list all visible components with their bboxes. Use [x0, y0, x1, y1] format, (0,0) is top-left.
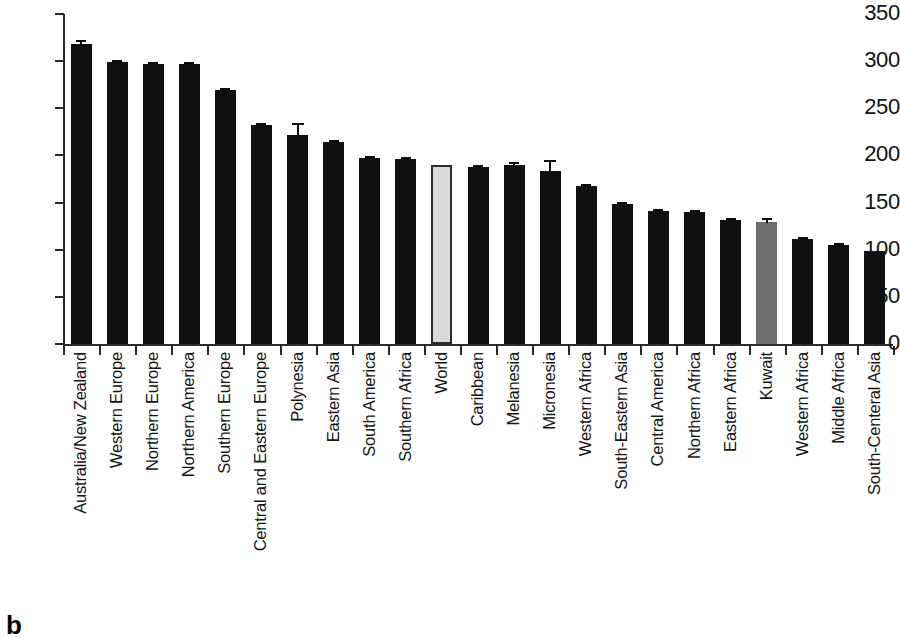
x-axis-tick	[352, 346, 354, 355]
bar-south-america	[359, 158, 380, 344]
x-axis-label-australia-new-zealand: Australia/New Zealand	[72, 352, 89, 514]
x-axis-tick	[207, 346, 209, 355]
bar-eastern-asia	[323, 142, 344, 344]
x-axis-tick	[316, 346, 318, 355]
error-bar	[472, 165, 484, 168]
bar-southern-africa	[395, 159, 416, 344]
error-bar	[219, 88, 231, 91]
bar-eastern-africa	[720, 220, 741, 344]
bar-south-eastern-asia	[612, 204, 633, 344]
x-axis-label-eastern-africa: Eastern Africa	[722, 352, 739, 452]
error-bar	[616, 202, 628, 205]
bar-northern-america	[179, 64, 200, 344]
bar-middle-africa	[828, 245, 849, 344]
bar-chart-plot: 050100150200250300350 Australia/New Zeal…	[0, 0, 900, 638]
x-axis-tick	[243, 346, 245, 355]
bar-micronesia	[540, 171, 561, 344]
x-axis-label-southern-africa: Southern Africa	[397, 352, 414, 462]
bar-western-europe	[107, 62, 128, 344]
error-bar	[328, 140, 340, 143]
bar-kuwait	[756, 222, 777, 344]
x-axis-label-central-and-eastern-europe: Central and Eastern Europe	[252, 352, 269, 551]
y-axis-tick	[55, 60, 64, 62]
x-axis-tick	[785, 346, 787, 355]
bar-southern-europe	[215, 90, 236, 344]
error-bar	[75, 40, 87, 45]
y-axis-tick	[55, 343, 64, 345]
bar-central-and-eastern-europe	[251, 125, 272, 344]
bar-western-africa	[576, 186, 597, 344]
x-axis-tick	[713, 346, 715, 355]
bar-polynesia	[287, 135, 308, 344]
error-bar	[652, 209, 664, 212]
y-axis-tick-label: 150	[852, 191, 900, 213]
x-axis-tick	[676, 346, 678, 355]
error-bar	[544, 160, 556, 172]
bar-south-centeral-asia	[864, 251, 885, 344]
bar-world	[431, 165, 452, 344]
x-axis-label-eastern-asia: Eastern Asia	[325, 352, 342, 442]
x-axis-tick	[171, 346, 173, 355]
x-axis-tick	[604, 346, 606, 355]
error-bar	[292, 123, 304, 136]
y-axis-tick-label: 250	[852, 96, 900, 118]
bar-central-america	[648, 211, 669, 344]
error-bar	[508, 162, 520, 166]
x-axis-label-central-america: Central America	[649, 352, 666, 466]
y-axis-tick	[55, 13, 64, 15]
x-axis-label-middle-africa: Middle Africa	[830, 352, 847, 444]
error-bar	[111, 60, 123, 63]
x-axis-label-kuwait: Kuwait	[758, 352, 775, 400]
x-axis-tick	[893, 346, 895, 355]
y-axis-tick-label: 200	[852, 143, 900, 165]
x-axis-tick	[640, 346, 642, 355]
error-bar	[797, 237, 809, 240]
x-axis-tick	[496, 346, 498, 355]
error-bar	[255, 123, 267, 126]
x-axis-tick	[460, 346, 462, 355]
x-axis-label-south-eastern-asia: South-Eastern Asia	[613, 352, 630, 490]
error-bar	[364, 156, 376, 159]
y-axis-tick	[55, 249, 64, 251]
x-axis-label-south-america: South America	[361, 352, 378, 457]
x-axis-label-caribbean: Caribbean	[469, 352, 486, 426]
x-axis-label-northern-africa: Northern Africa	[686, 352, 703, 459]
x-axis-tick	[424, 346, 426, 355]
y-axis-tick	[55, 107, 64, 109]
x-axis-tick	[857, 346, 859, 355]
x-axis-label-micronesia: Micronesia	[541, 352, 558, 430]
panel-label: b	[6, 612, 22, 638]
bar-caribbean	[468, 167, 489, 344]
y-axis-tick	[55, 202, 64, 204]
y-axis-tick	[55, 296, 64, 298]
error-bar	[580, 184, 592, 187]
bar-australia-new-zealand	[71, 44, 92, 344]
error-bar	[400, 157, 412, 160]
x-axis-tick	[99, 346, 101, 355]
x-axis-label-polynesia: Polynesia	[289, 352, 306, 422]
x-axis-label-world: World	[433, 352, 450, 394]
error-bar	[183, 62, 195, 65]
x-axis-line	[63, 344, 893, 346]
y-axis-tick-label: 300	[852, 49, 900, 71]
x-axis-tick	[388, 346, 390, 355]
x-axis-label-northern-america: Northern America	[180, 352, 197, 477]
figure-panel: 050100150200250300350 Australia/New Zeal…	[0, 0, 900, 638]
error-bar	[147, 62, 159, 65]
bar-western-africa	[792, 239, 813, 344]
error-bar	[761, 218, 773, 223]
x-axis-label-western-africa: Western Africa	[577, 352, 594, 456]
x-axis-tick	[63, 346, 65, 355]
error-bar	[689, 210, 701, 213]
bar-northern-europe	[143, 64, 164, 344]
x-axis-label-western-europe: Western Europe	[108, 352, 125, 468]
x-axis-label-northern-europe: Northern Europe	[144, 352, 161, 471]
bar-melanesia	[504, 165, 525, 344]
x-axis-tick	[821, 346, 823, 355]
bar-northern-africa	[684, 212, 705, 344]
x-axis-label-south-centeral-asia: South-Centeral Asia	[866, 352, 883, 495]
x-axis-tick	[532, 346, 534, 355]
x-axis-tick	[749, 346, 751, 355]
x-axis-label-melanesia: Melanesia	[505, 352, 522, 425]
error-bar	[833, 243, 845, 246]
